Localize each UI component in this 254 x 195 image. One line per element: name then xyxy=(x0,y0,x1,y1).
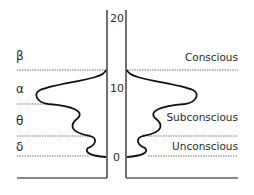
state-label-conscious: Conscious xyxy=(185,51,238,63)
band-label-beta: β xyxy=(16,49,24,63)
band-label-alpha: α xyxy=(16,82,24,96)
brainwave-consciousness-diagram: 20 10 0 β α θ δ Conscious Subconscious U… xyxy=(0,0,254,195)
tick-label-0: 0 xyxy=(113,151,120,164)
state-label-unconscious: Unconscious xyxy=(172,140,238,152)
band-label-delta: δ xyxy=(16,140,23,154)
state-label-subconscious: Subconscious xyxy=(166,111,238,123)
tick-label-10: 10 xyxy=(110,82,124,95)
band-label-theta: θ xyxy=(16,114,23,128)
tick-label-20: 20 xyxy=(110,12,124,25)
left-wave-curve xyxy=(36,70,106,157)
left-band-boundaries xyxy=(17,70,106,156)
